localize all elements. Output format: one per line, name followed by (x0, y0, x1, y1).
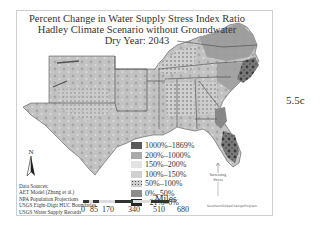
legend-swatch (131, 171, 142, 178)
legend-item: 1000%–1869% (131, 141, 194, 151)
stress-line (215, 182, 221, 196)
scale-tick: 85 (90, 205, 98, 214)
legend-item: 200%–1000% (131, 151, 194, 161)
map-title: Percent Change in Water Supply Stress In… (17, 13, 257, 46)
legend-swatch (131, 180, 142, 187)
north-label: N (24, 148, 38, 156)
legend-swatch (131, 142, 142, 149)
map-frame: Percent Change in Water Supply Stress In… (16, 10, 273, 216)
scale-tick: 340 (128, 205, 140, 214)
north-arrow: N (24, 148, 38, 180)
scale-tick: 510 (153, 205, 165, 214)
title-line-3: Dry Year: 2043 (17, 35, 257, 46)
title-line-1: Percent Change in Water Supply Stress In… (17, 13, 257, 24)
legend-label: 50%–100% (145, 179, 182, 188)
north-arrow-icon (26, 156, 36, 176)
legend-label: 150%–200% (145, 160, 186, 169)
scale-tick: 0 (81, 205, 85, 214)
legend-item: 50%–100% (131, 179, 194, 189)
stress-label-2: Stress (203, 178, 233, 183)
legend-swatch (131, 190, 142, 197)
scale-segment (99, 200, 115, 203)
figure-label: 5.5c (286, 94, 305, 106)
credit-text: SouthernGlobalChangeProgram (207, 204, 257, 208)
scale-tick: 170 (102, 205, 114, 214)
legend-swatch (131, 161, 142, 168)
scale-segment (133, 200, 151, 203)
title-line-2: Hadley Climate Scenario without Groundwa… (17, 24, 257, 35)
scale-segment (115, 200, 133, 203)
legend-label: 200%–1000% (145, 151, 190, 160)
scale-tick: 680 (177, 205, 189, 214)
stress-indicator: Increasing Stress (203, 163, 233, 196)
legend-label: 1000%–1869% (145, 141, 194, 150)
legend-item: 150%–200% (131, 160, 194, 170)
legend-item: 100%–150% (131, 170, 194, 180)
legend-label: 100%–150% (145, 170, 186, 179)
scale-unit: Miles (155, 194, 177, 204)
legend-swatch (131, 152, 142, 159)
